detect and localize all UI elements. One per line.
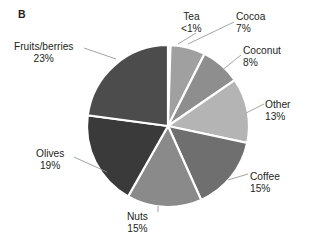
leader-line-fruits <box>84 48 116 59</box>
pie-label-olives-value: 19% <box>36 160 64 172</box>
pie-slice-fruits-berries <box>88 45 168 126</box>
pie-label-tea-name: Tea <box>181 11 202 23</box>
pie-label-other: Other 13% <box>265 99 290 124</box>
pie-label-cocoa-value: 7% <box>236 23 265 35</box>
pie-label-nuts-name: Nuts <box>127 211 148 223</box>
pie-label-nuts: Nuts 15% <box>127 211 148 236</box>
pie-label-olives: Olives 19% <box>36 148 64 173</box>
pie-label-coffee-value: 15% <box>250 183 280 195</box>
pie-label-tea-value: <1% <box>181 23 202 35</box>
pie-label-fruits-berries-name: Fruits/berries <box>14 41 73 53</box>
pie-label-other-name: Other <box>265 99 290 111</box>
leader-line-other <box>246 104 264 113</box>
pie-chart-canvas <box>0 0 312 248</box>
pie-label-coconut: Coconut 8% <box>243 45 281 70</box>
pie-label-olives-name: Olives <box>36 148 64 160</box>
pie-label-coconut-value: 8% <box>243 57 281 69</box>
pie-slices-group <box>87 45 249 207</box>
pie-label-coffee-name: Coffee <box>250 171 280 183</box>
pie-label-fruits-berries-value: 23% <box>14 53 73 65</box>
pie-label-fruits-berries: Fruits/berries 23% <box>14 41 73 66</box>
pie-chart-figure: B Fruits/berries 23% Olives 19% Nuts 15%… <box>0 0 312 248</box>
pie-label-tea: Tea <1% <box>181 11 202 36</box>
pie-label-cocoa: Cocoa 7% <box>236 11 265 36</box>
pie-label-coconut-name: Coconut <box>243 45 281 57</box>
pie-label-cocoa-name: Cocoa <box>236 11 265 23</box>
pie-label-nuts-value: 15% <box>127 223 148 235</box>
pie-label-coffee: Coffee 15% <box>250 171 280 196</box>
pie-label-other-value: 13% <box>265 111 290 123</box>
